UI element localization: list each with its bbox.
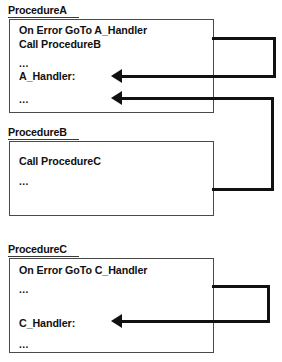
procedure-c-title: ProcedureC: [8, 243, 67, 255]
procedure-a-line-4: ...: [19, 93, 29, 105]
arrowhead-b-to-a-icon: [111, 91, 122, 105]
procedure-b-line-1: ...: [19, 175, 29, 187]
procedure-c-line-2: C_Handler:: [19, 317, 75, 329]
procedure-a-line-3: A_Handler:: [19, 70, 75, 82]
connector-b-segment-top: [122, 97, 274, 100]
procedure-a-title-underline: [8, 17, 79, 18]
procedure-b-title-underline: [8, 139, 79, 140]
connector-a-segment-top: [212, 37, 276, 40]
procedure-a-title: ProcedureA: [8, 4, 67, 16]
procedure-b-box: [9, 141, 214, 216]
connector-b-segment-right: [271, 97, 274, 190]
procedure-c-title-underline: [8, 256, 79, 257]
connector-c-segment-top: [212, 285, 270, 288]
procedure-c-line-3: ...: [19, 338, 29, 350]
connector-c-segment-right: [267, 285, 270, 323]
procedure-a-line-0: On Error GoTo A_Handler: [19, 24, 147, 36]
procedure-a-line-2: ...: [19, 57, 29, 69]
connector-a-segment-right: [273, 37, 276, 78]
arrowhead-c-handler-icon: [111, 314, 122, 328]
connector-c-segment-bottom: [122, 320, 270, 323]
procedure-b-title: ProcedureB: [8, 126, 67, 138]
connector-a-segment-bottom: [122, 75, 276, 78]
procedure-c-line-0: On Error GoTo C_Handler: [19, 264, 147, 276]
procedure-b-line-0: Call ProcedureC: [19, 155, 101, 167]
arrowhead-a-handler-icon: [111, 69, 122, 83]
connector-b-segment-bottom: [212, 188, 274, 191]
error-handling-diagram: ProcedureA On Error GoTo A_Handler Call …: [0, 0, 282, 362]
procedure-a-line-1: Call ProcedureB: [19, 38, 101, 50]
procedure-c-line-1: ...: [19, 283, 29, 295]
